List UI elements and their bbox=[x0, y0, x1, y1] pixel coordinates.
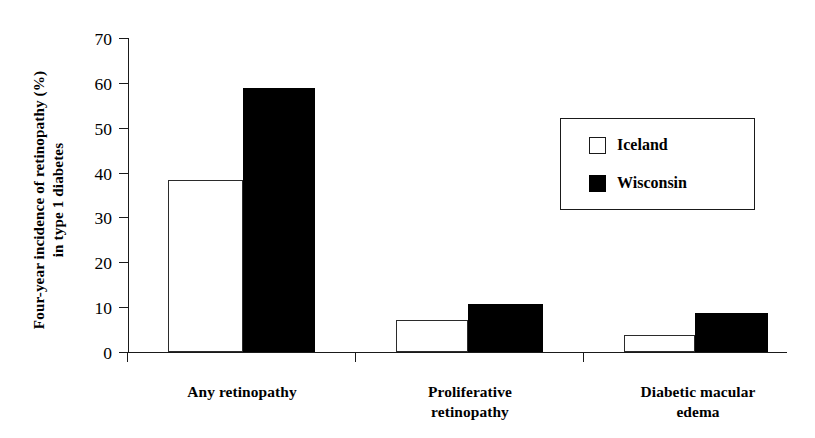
y-tick-70: 70 bbox=[119, 38, 128, 39]
y-axis-line bbox=[128, 38, 129, 352]
x-category-label-line-2: edema bbox=[584, 402, 812, 422]
x-category-label-line-1: Proliferative bbox=[356, 382, 584, 402]
y-tick-50: 50 bbox=[119, 128, 128, 129]
y-tick-40: 40 bbox=[119, 173, 128, 174]
x-category-label-diabetic-macular-edema: Diabetic macular edema bbox=[584, 382, 812, 422]
x-category-label-line-2: retinopathy bbox=[356, 402, 584, 422]
legend-label-wisconsin: Wisconsin bbox=[617, 174, 687, 192]
legend-swatch-filled-icon bbox=[589, 175, 606, 192]
y-tick-30: 30 bbox=[119, 217, 128, 218]
y-axis-title: Four-year incidence of retinopathy (%) i… bbox=[0, 0, 96, 400]
y-tick-label-0: 0 bbox=[103, 342, 112, 364]
x-tick-boundary-0 bbox=[127, 352, 128, 362]
y-axis-title-line-2: in type 1 diabetes bbox=[48, 71, 67, 329]
x-category-label-any-retinopathy: Any retinopathy bbox=[128, 382, 356, 402]
y-tick-10: 10 bbox=[119, 307, 128, 308]
y-axis-title-line-1: Four-year incidence of retinopathy (%) bbox=[29, 71, 48, 329]
x-category-label-proliferative-retinopathy: Proliferative retinopathy bbox=[356, 382, 584, 422]
x-category-label-line-1: Diabetic macular bbox=[584, 382, 812, 402]
y-tick-label-40: 40 bbox=[95, 163, 113, 185]
x-axis-line bbox=[122, 352, 787, 353]
bar-wisconsin-any-retinopathy bbox=[243, 88, 315, 352]
y-tick-60: 60 bbox=[119, 83, 128, 84]
legend-swatch-open-icon bbox=[589, 137, 606, 154]
x-tick-boundary-1 bbox=[355, 352, 356, 362]
bar-wisconsin-proliferative-retinopathy bbox=[468, 304, 543, 352]
y-tick-label-60: 60 bbox=[95, 73, 113, 95]
bar-iceland-any-retinopathy bbox=[168, 180, 243, 352]
chart-figure: Four-year incidence of retinopathy (%) i… bbox=[0, 0, 815, 438]
legend-item-wisconsin: Wisconsin bbox=[589, 174, 754, 192]
y-tick-20: 20 bbox=[119, 262, 128, 263]
y-tick-label-50: 50 bbox=[95, 118, 113, 140]
bar-iceland-proliferative-retinopathy bbox=[396, 320, 468, 352]
y-tick-label-30: 30 bbox=[95, 207, 113, 229]
x-tick-boundary-2 bbox=[583, 352, 584, 362]
y-tick-label-70: 70 bbox=[95, 28, 113, 50]
legend-label-iceland: Iceland bbox=[617, 136, 668, 154]
y-tick-label-10: 10 bbox=[95, 297, 113, 319]
y-tick-label-20: 20 bbox=[95, 252, 113, 274]
chart-legend: Iceland Wisconsin bbox=[560, 118, 755, 210]
legend-item-iceland: Iceland bbox=[589, 136, 754, 154]
bar-wisconsin-diabetic-macular-edema bbox=[695, 313, 768, 352]
x-category-label-line-1: Any retinopathy bbox=[128, 382, 356, 402]
bar-iceland-diabetic-macular-edema bbox=[624, 335, 695, 353]
